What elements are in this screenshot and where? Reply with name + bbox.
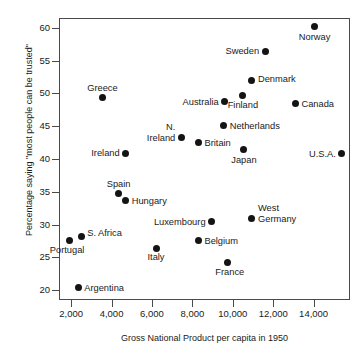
y-axis-tick-label: 40	[24, 154, 50, 164]
y-axis-tick-label: 45	[24, 121, 50, 131]
x-axis-tick	[314, 300, 315, 307]
data-point-label: Luxembourg	[154, 217, 206, 228]
data-point	[178, 134, 185, 141]
y-axis-tick-label: 35	[24, 187, 50, 197]
x-axis-tick	[71, 300, 72, 307]
data-point-label: Hungary	[132, 196, 167, 207]
data-point	[262, 48, 269, 55]
y-axis-tick	[52, 93, 60, 94]
data-point-label: Sweden	[226, 46, 260, 57]
data-point	[122, 150, 129, 157]
y-axis-tick-label: 55	[24, 56, 50, 66]
y-axis-tick	[52, 61, 60, 62]
y-axis-tick	[52, 257, 60, 258]
y-axis-tick	[52, 28, 60, 29]
data-point-label: Ireland	[91, 148, 119, 159]
data-point-label: Australia	[183, 97, 219, 108]
x-axis-label: Gross National Product per capita in 195…	[59, 333, 350, 343]
data-point-label: Portugal	[50, 245, 85, 256]
data-point	[195, 139, 202, 146]
data-point-label: West Germany	[258, 203, 296, 224]
x-axis-tick	[192, 300, 193, 307]
data-point-label: France	[215, 267, 244, 278]
y-axis-tick	[52, 192, 60, 193]
x-axis-tick	[233, 300, 234, 307]
data-point-label: U.S.A.	[309, 149, 336, 160]
y-axis-tick-label: 25	[24, 252, 50, 262]
data-point	[153, 245, 160, 252]
y-axis-tick-label: 60	[24, 23, 50, 33]
y-axis-tick	[52, 159, 60, 160]
y-axis-tick	[52, 126, 60, 127]
data-point-label: Argentina	[84, 282, 124, 293]
data-point-label: Greece	[87, 83, 118, 94]
data-point-label: Belgium	[204, 236, 238, 247]
y-axis-tick-label: 20	[24, 285, 50, 295]
data-point-label: Japan	[231, 155, 256, 166]
x-axis-tick-label: 14,000	[290, 309, 338, 319]
data-point-label: Norway	[299, 32, 331, 43]
y-axis-tick-label: 30	[24, 220, 50, 230]
x-axis-tick	[152, 300, 153, 307]
data-point	[75, 284, 82, 291]
data-point	[115, 190, 122, 197]
data-point-label: Denmark	[258, 74, 296, 85]
data-point-label: Italy	[147, 252, 164, 263]
scatter-chart-figure: Percentage saying "most people can be tr…	[0, 0, 363, 355]
data-point	[122, 197, 129, 204]
data-point-label: Canada	[301, 99, 334, 110]
data-point-label: Finland	[228, 100, 259, 111]
plot-area	[59, 18, 350, 300]
y-axis-tick-label: 50	[24, 88, 50, 98]
y-axis-tick	[52, 225, 60, 226]
data-point-label: Britain	[204, 137, 230, 148]
data-point-label: N. Ireland	[147, 122, 175, 143]
data-point-label: Netherlands	[230, 120, 280, 131]
data-point	[78, 233, 85, 240]
y-axis-label: Percentage saying "most people can be tr…	[24, 5, 34, 275]
data-point	[99, 94, 106, 101]
x-axis-tick	[112, 300, 113, 307]
data-point-label: Spain	[107, 179, 131, 190]
y-axis-tick	[52, 290, 60, 291]
x-axis-tick	[273, 300, 274, 307]
data-point-label: S. Africa	[87, 228, 122, 239]
